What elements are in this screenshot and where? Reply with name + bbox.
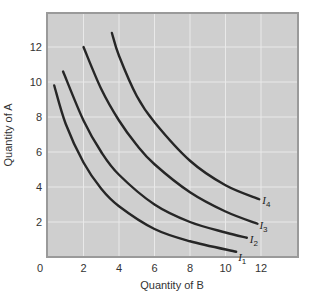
y-tick-label: 4	[36, 181, 42, 193]
origin-label: 0	[37, 262, 43, 274]
x-tick-label: 2	[80, 262, 86, 274]
y-tick-label: 10	[30, 76, 42, 88]
y-tick-label: 2	[36, 216, 42, 228]
x-axis-label: Quantity of B	[140, 279, 204, 291]
x-tick-label: 6	[151, 262, 157, 274]
indifference-curve-chart: I1I2I3I4 24681012 24681012 Quantity of B…	[0, 0, 311, 299]
x-axis-ticks: 24681012	[80, 262, 267, 274]
y-tick-label: 12	[30, 41, 42, 53]
x-tick-label: 4	[116, 262, 122, 274]
x-tick-label: 10	[219, 262, 231, 274]
y-tick-label: 8	[36, 111, 42, 123]
y-axis-label: Quantity of A	[2, 103, 14, 167]
y-axis-ticks: 24681012	[30, 41, 42, 228]
x-tick-label: 8	[187, 262, 193, 274]
x-tick-label: 12	[255, 262, 267, 274]
y-tick-label: 6	[36, 146, 42, 158]
